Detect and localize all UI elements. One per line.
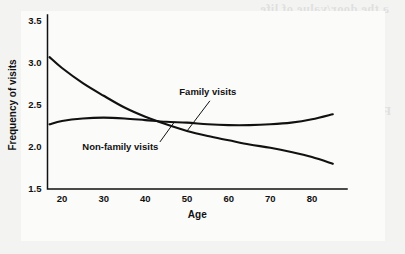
- x-tick-label: 60: [223, 193, 234, 204]
- y-tick-label: 3.5: [28, 15, 42, 26]
- series-label: Family visits: [179, 86, 236, 97]
- x-tick-label: 20: [57, 193, 68, 204]
- y-tick-label: 3.0: [28, 57, 41, 68]
- series-line: [50, 114, 333, 125]
- figure-page: a the door/value of life the anti social…: [0, 0, 405, 254]
- y-tick-label: 2.0: [28, 141, 41, 152]
- x-tick-label: 30: [98, 193, 109, 204]
- y-tick-label: 1.5: [28, 183, 42, 194]
- x-tick-label: 80: [307, 193, 318, 204]
- series-label: Non-family visits: [82, 141, 158, 152]
- x-tick-label: 50: [182, 193, 193, 204]
- x-tick-label: 40: [140, 193, 151, 204]
- x-axis-title: Age: [188, 209, 207, 220]
- chart-axes: [48, 15, 348, 189]
- y-axis-title: Frequency of visits: [7, 59, 18, 151]
- annotation-leader-line: [187, 101, 210, 131]
- x-tick-label: 70: [265, 193, 276, 204]
- y-tick-label: 2.5: [28, 99, 42, 110]
- line-chart: 1.52.02.53.03.520304050607080AgeFrequenc…: [0, 0, 384, 243]
